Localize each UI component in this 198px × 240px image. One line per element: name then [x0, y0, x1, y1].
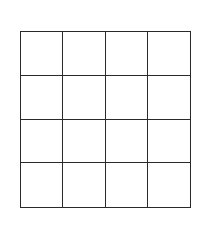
grid-cell[interactable]: [106, 32, 148, 76]
grid-cell[interactable]: [148, 120, 190, 164]
grid-cell[interactable]: [63, 76, 105, 120]
grid-cell[interactable]: [63, 32, 105, 76]
grid-cell[interactable]: [21, 120, 63, 164]
grid-cell[interactable]: [148, 163, 190, 207]
grid-cell[interactable]: [148, 76, 190, 120]
grid-cell[interactable]: [148, 32, 190, 76]
grid-cell[interactable]: [106, 163, 148, 207]
grid-cell[interactable]: [21, 76, 63, 120]
grid-cell[interactable]: [21, 163, 63, 207]
grid-4x4: [20, 31, 191, 208]
grid-cell[interactable]: [63, 163, 105, 207]
grid-cell[interactable]: [63, 120, 105, 164]
grid-cell[interactable]: [21, 32, 63, 76]
grid-cell[interactable]: [106, 120, 148, 164]
grid-cell[interactable]: [106, 76, 148, 120]
